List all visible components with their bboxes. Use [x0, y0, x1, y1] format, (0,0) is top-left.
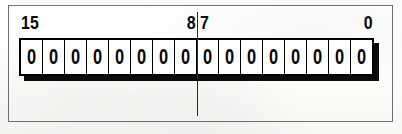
figure-root: 15 8 7 0 0 0 0 0 0 0 — [0, 0, 402, 134]
bit-cell: 0 — [263, 40, 285, 74]
bit-value: 0 — [49, 46, 58, 67]
bit-value: 0 — [357, 46, 366, 67]
bit-label-8: 8 — [187, 13, 196, 32]
bit-label-15: 15 — [21, 13, 39, 32]
bit-value: 0 — [181, 46, 190, 67]
bit-cell: 0 — [219, 40, 241, 74]
bit-cell: 0 — [109, 40, 131, 74]
bit-value: 0 — [225, 46, 234, 67]
bit-value: 0 — [313, 46, 322, 67]
bit-value: 0 — [247, 46, 256, 67]
bit-cell: 0 — [87, 40, 109, 74]
bit-cell: 0 — [351, 40, 372, 74]
bit-value: 0 — [335, 46, 344, 67]
bit-value: 0 — [27, 46, 36, 67]
bit-value: 0 — [291, 46, 300, 67]
bit-cell: 0 — [175, 40, 197, 74]
bit-label-7: 7 — [200, 13, 209, 32]
bit-label-0: 0 — [364, 13, 373, 32]
byte-boundary-divider — [197, 12, 198, 116]
bit-value: 0 — [71, 46, 80, 67]
bit-value: 0 — [269, 46, 278, 67]
bit-value: 0 — [93, 46, 102, 67]
bit-cell: 0 — [197, 40, 219, 74]
bit-cell: 0 — [21, 40, 43, 74]
bit-cell: 0 — [241, 40, 263, 74]
bit-cell: 0 — [131, 40, 153, 74]
bit-value: 0 — [203, 46, 212, 67]
bit-cell: 0 — [153, 40, 175, 74]
bit-value: 0 — [137, 46, 146, 67]
bit-value: 0 — [159, 46, 168, 67]
bit-cell: 0 — [329, 40, 351, 74]
bit-value: 0 — [115, 46, 124, 67]
bit-cell: 0 — [43, 40, 65, 74]
bit-cell: 0 — [65, 40, 87, 74]
register-diagram: 15 8 7 0 0 0 0 0 0 0 — [0, 0, 402, 134]
bit-cell: 0 — [307, 40, 329, 74]
bit-cell: 0 — [285, 40, 307, 74]
